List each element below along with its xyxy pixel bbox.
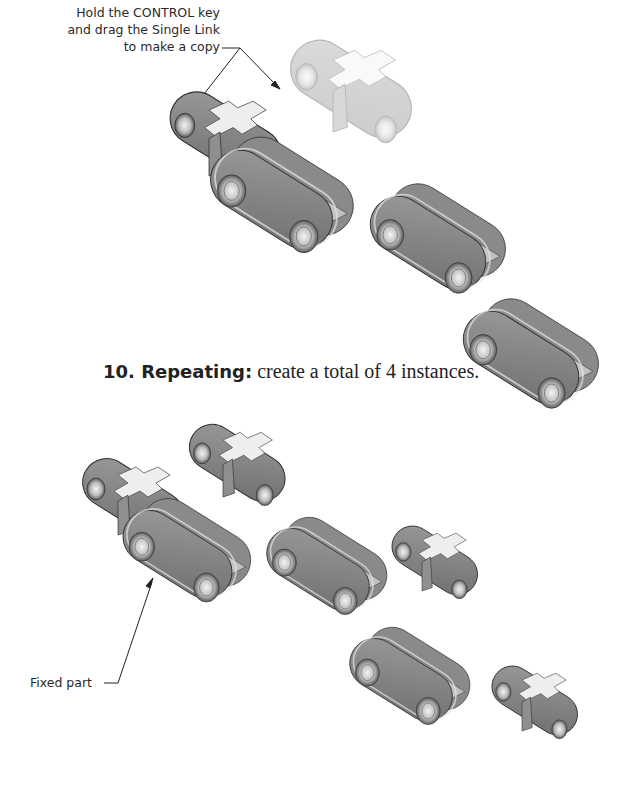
- callout-fixed-part: Fixed part: [30, 674, 92, 691]
- double-link-b: [340, 618, 479, 731]
- double-link-2: [453, 288, 609, 415]
- single-link-3: [484, 658, 585, 742]
- callout-line-3: to make a copy: [100, 38, 220, 55]
- double-link-1: [360, 173, 516, 300]
- double-link-a: [257, 508, 396, 621]
- step-instruction: 10. Repeating: create a total of 4 insta…: [103, 360, 479, 383]
- illustration-canvas: [0, 0, 618, 803]
- callout-line-2: and drag the Single Link: [60, 21, 220, 38]
- fixed-part-label: Fixed part: [30, 675, 92, 690]
- single-link-2: [384, 518, 485, 602]
- fixed-part-leader: [104, 578, 153, 683]
- callout-control-drag: Hold the CONTROL key and drag the Single…: [100, 4, 220, 55]
- callout-line-1: Hold the CONTROL key: [60, 4, 220, 21]
- step-text: create a total of 4 instances.: [252, 360, 479, 382]
- single-link-1: [181, 416, 294, 510]
- single-link-copy-transparent: [280, 29, 422, 148]
- step-number-label: 10. Repeating:: [103, 361, 252, 382]
